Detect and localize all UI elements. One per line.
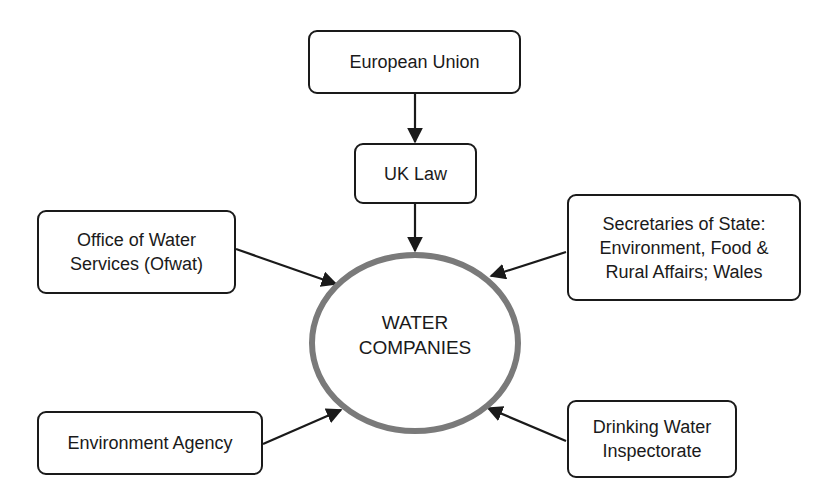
node-label: European Union (349, 50, 479, 74)
node-label: UK Law (384, 162, 447, 186)
node-label-line2: Environment, Food & (599, 236, 768, 260)
node-label-line2: COMPANIES (310, 335, 520, 360)
node-label-line1: Secretaries of State: (602, 212, 765, 236)
node-water-companies: WATER COMPANIES (310, 310, 520, 360)
node-drinking-water-inspectorate: Drinking Water Inspectorate (567, 400, 737, 478)
node-secretaries-of-state: Secretaries of State: Environment, Food … (567, 194, 801, 301)
node-uk-law: UK Law (354, 143, 477, 204)
node-label-line3: Rural Affairs; Wales (605, 260, 762, 284)
arrow-dwi-to-water-companies (488, 408, 566, 441)
node-label-line1: WATER (310, 310, 520, 335)
node-label-line1: Office of Water (77, 228, 196, 252)
arrow-secretaries-to-water-companies (491, 252, 566, 276)
node-label-line1: Drinking Water (593, 415, 711, 439)
node-european-union: European Union (308, 30, 521, 94)
arrow-env-agency-to-water-companies (263, 410, 341, 444)
node-ofwat: Office of Water Services (Ofwat) (37, 210, 236, 294)
node-environment-agency: Environment Agency (37, 411, 263, 475)
arrow-ofwat-to-water-companies (236, 249, 336, 284)
node-label: Environment Agency (67, 431, 232, 455)
node-label-line2: Services (Ofwat) (70, 252, 203, 276)
node-label-line2: Inspectorate (602, 439, 701, 463)
